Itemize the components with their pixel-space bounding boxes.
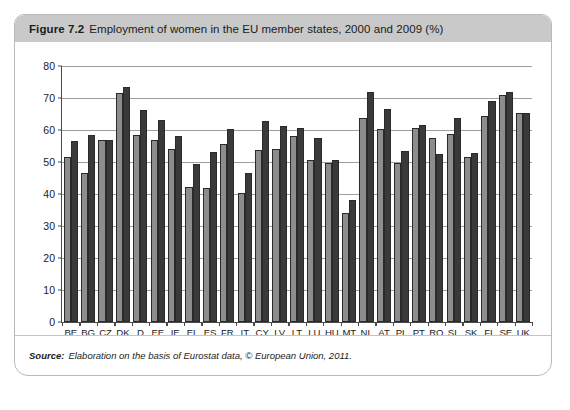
bar-HU-2009 [332,160,339,322]
bar-group [393,66,410,322]
bar-group [515,66,532,322]
bar-DK-2000 [116,93,123,322]
bar-MT-2000 [342,213,349,322]
y-tick-label: 10 [43,284,55,296]
bar-ES-2000 [203,188,210,322]
bar-IE-2000 [168,149,175,322]
source-label: Source: [29,350,64,361]
x-tick-mark [445,322,446,326]
figure-title: Employment of women in the EU member sta… [89,23,443,35]
x-tick-mark [149,322,150,326]
bar-group [462,66,479,322]
bar-group [97,66,114,322]
bar-D-2009 [140,110,147,322]
bar-IE-2009 [175,136,182,322]
x-tick-mark [97,322,98,326]
y-tick-label: 30 [43,220,55,232]
bar-group [323,66,340,322]
bar-ES-2009 [210,152,217,322]
bar-FR-2009 [227,129,234,322]
bar-SL-2009 [454,118,461,322]
bar-SK-2009 [471,153,478,322]
bar-IT-2000 [238,193,245,322]
bar-group [497,66,514,322]
source-text: Elaboration on the basis of Eurostat dat… [68,350,352,361]
bar-group [341,66,358,322]
y-tick-label: 60 [43,124,55,136]
bar-group [288,66,305,322]
bar-HU-2000 [325,163,332,322]
x-tick-mark [428,322,429,326]
x-tick-mark [253,322,254,326]
bar-RO-2000 [429,138,436,322]
bar-LV-2000 [272,149,279,322]
bar-FR-2000 [220,144,227,322]
bar-AT-2000 [377,129,384,322]
bar-group [410,66,427,322]
bar-UK-2000 [516,113,523,322]
bar-PT-2009 [419,125,426,322]
bar-IT-2009 [245,173,252,322]
bar-group [132,66,149,322]
x-tick-mark [132,322,133,326]
chart-area: 01020304050607080 BEBGCZDKDEEIEELESFRITC… [15,42,551,335]
bar-LT-2000 [290,136,297,322]
bar-UK-2009 [523,113,530,322]
bar-RO-2009 [436,154,443,322]
x-tick-mark [306,322,307,326]
x-tick-mark [532,322,533,326]
bar-LT-2009 [297,128,304,322]
bar-LV-2009 [280,126,287,322]
bar-SL-2000 [447,134,454,322]
x-tick-mark [271,322,272,326]
bar-BG-2009 [88,135,95,322]
bar-group [114,66,131,322]
y-tick-label: 80 [43,60,55,72]
plot-area: 01020304050607080 BEBGCZDKDEEIEELESFRITC… [61,66,532,323]
bar-LU-2000 [307,160,314,322]
x-tick-mark [166,322,167,326]
y-tick-label: 50 [43,156,55,168]
x-tick-mark [375,322,376,326]
bar-group [149,66,166,322]
y-tick-label: 70 [43,92,55,104]
bar-MT-2009 [349,200,356,322]
bar-group [79,66,96,322]
bar-group [219,66,236,322]
bar-BE-2009 [71,141,78,322]
x-tick-mark [515,322,516,326]
bar-series-container [62,66,532,322]
bar-CZ-2000 [98,140,105,322]
bar-group [236,66,253,322]
bar-group [253,66,270,322]
figure-container: Figure 7.2 Employment of women in the EU… [14,14,552,376]
bar-group [358,66,375,322]
bar-group [184,66,201,322]
x-tick-mark [184,322,185,326]
x-tick-mark [236,322,237,326]
x-tick-mark [393,322,394,326]
x-tick-mark [201,322,202,326]
bar-SK-2000 [464,157,471,322]
bar-CY-2009 [262,121,269,322]
figure-footer: Source: Elaboration on the basis of Euro… [15,335,551,375]
bar-PL-2000 [394,163,401,322]
bar-group [445,66,462,322]
bar-CZ-2009 [106,140,113,322]
bar-SE-2000 [499,95,506,322]
bar-LU-2009 [314,138,321,322]
x-tick-mark [480,322,481,326]
x-tick-mark [462,322,463,326]
bar-FI-2009 [488,101,495,322]
y-tick-label: 0 [49,316,55,328]
x-tick-mark [341,322,342,326]
bar-PT-2000 [412,128,419,322]
bar-group [428,66,445,322]
bar-PL-2009 [401,151,408,322]
bar-EL-2000 [185,187,192,322]
bar-D-2000 [133,135,140,322]
bar-CY-2000 [255,150,262,322]
x-tick-mark [288,322,289,326]
x-tick-mark [410,322,411,326]
bar-NL-2000 [359,118,366,322]
